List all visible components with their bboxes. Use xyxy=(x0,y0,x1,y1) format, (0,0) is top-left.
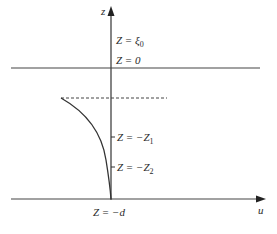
depth-2-label: Z = −Z2 xyxy=(117,161,154,176)
z-axis-label: z xyxy=(100,5,106,17)
velocity-profile-diagram: z u Z = ξ0 Z = 0 Z = −Z1 Z = −Z2 Z = −d xyxy=(0,0,277,234)
u-axis-label: u xyxy=(258,204,264,216)
u-axis-arrow-icon xyxy=(256,196,266,203)
bottom-depth-label: Z = −d xyxy=(93,206,125,218)
velocity-profile-curve xyxy=(61,98,111,199)
z-axis-arrow-icon xyxy=(108,6,115,16)
surface-elevation-label: Z = ξ0 xyxy=(116,34,144,49)
depth-1-label: Z = −Z1 xyxy=(117,131,154,146)
mean-level-label: Z = 0 xyxy=(116,54,141,66)
